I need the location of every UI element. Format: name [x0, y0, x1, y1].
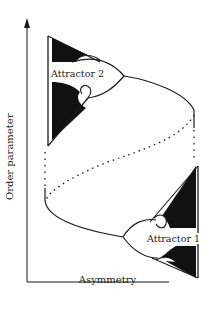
- diagram-canvas: [0, 0, 209, 309]
- y-axis-label: Order parameter: [4, 114, 15, 200]
- upper-stable-branch: [124, 76, 194, 128]
- lower-stable-branch: [45, 188, 123, 237]
- attractor-2-region: [48, 36, 124, 146]
- bifurcation-figure: Attractor 2 Attractor 1 Asymmetry Order …: [0, 0, 209, 309]
- unstable-branch: [46, 115, 194, 200]
- y-axis-arrow-icon: [24, 18, 30, 28]
- x-axis-label: Asymmetry: [0, 274, 209, 285]
- attractor-1-region: [123, 166, 198, 278]
- attractor-2-label: Attractor 2: [50, 68, 105, 79]
- attractor-1-label: Attractor 1: [146, 233, 201, 244]
